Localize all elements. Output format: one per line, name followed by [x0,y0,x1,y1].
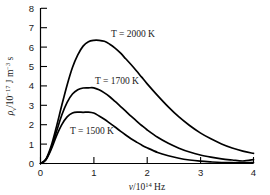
y-axis-unit-tail: s [5,56,15,62]
y-tick-label-6: 6 [29,42,34,53]
y-tick-labels: 0 1 2 3 4 5 6 7 8 [29,3,34,169]
y-axis-title: ρν/10−17 J m−3 s [4,56,17,116]
x-tick-label-1: 1 [91,167,96,178]
y-tick-label-4: 4 [29,80,34,91]
curve-label-2000k: T = 2000 K [111,29,155,39]
x-tick-labels: 0 1 2 3 4 [38,167,256,178]
y-tick-label-3: 3 [29,100,34,111]
y-tick-label-7: 7 [29,22,34,33]
curves-group [41,40,254,163]
y-tick-label-2: 2 [29,119,34,130]
x-tick-label-2: 2 [145,167,150,178]
x-axis-unit: Hz [152,182,165,192]
y-tick-label-1: 1 [29,139,34,150]
x-axis-title: ν/1014 Hz [129,181,165,192]
x-tick-label-3: 3 [198,167,203,178]
curve-annotations: T = 2000 K T = 1700 K T = 1500 K [70,29,155,136]
y-axis-unit: J m [5,69,15,85]
curve-label-1500k: T = 1500 K [70,126,114,136]
y-tick-label-8: 8 [29,3,34,14]
y-axis-scale: /10 [5,95,15,107]
y-tick-label-0: 0 [29,158,34,169]
chart-figure: 0 1 2 3 4 5 6 7 8 0 1 2 3 4 ν/1014 Hz ρν… [0,0,270,195]
x-tick-label-0: 0 [38,167,43,178]
curve-2000k [41,40,254,163]
blackbody-radiation-plot: 0 1 2 3 4 5 6 7 8 0 1 2 3 4 ν/1014 Hz ρν… [0,0,270,195]
x-axis-scale: /10 [133,182,145,192]
y-axis-unit-exponent: −3 [4,63,11,70]
y-tick-label-5: 5 [29,61,34,72]
y-tick-marks [41,8,47,163]
x-tick-label-4: 4 [251,167,256,178]
curve-label-1700k: T = 1700 K [95,76,139,86]
curve-1500k [41,112,254,163]
